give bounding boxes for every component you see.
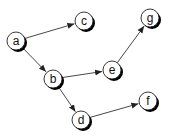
edge-a-to-b xyxy=(22,47,46,71)
node-e: e xyxy=(103,61,123,81)
graph-diagram: acgbedf xyxy=(0,0,172,138)
node-b: b xyxy=(44,70,64,90)
node-c: c xyxy=(75,12,95,32)
node-d: d xyxy=(72,111,92,131)
edge-b-to-d xyxy=(58,86,75,111)
node-label: c xyxy=(81,14,87,28)
edge-a-to-c xyxy=(25,24,75,39)
node-label: a xyxy=(13,34,20,48)
node-g: g xyxy=(141,9,161,29)
edge-b-to-e xyxy=(62,72,102,78)
node-label: d xyxy=(78,113,85,127)
edge-e-to-g xyxy=(117,26,144,63)
node-a: a xyxy=(7,32,27,52)
node-label: b xyxy=(50,72,57,86)
edges-layer xyxy=(22,24,144,118)
edge-d-to-f xyxy=(90,104,139,118)
graph-canvas: acgbedf xyxy=(0,0,172,138)
nodes-layer: acgbedf xyxy=(7,9,161,131)
node-label: g xyxy=(147,11,154,25)
node-f: f xyxy=(139,92,159,112)
node-label: e xyxy=(109,63,116,77)
